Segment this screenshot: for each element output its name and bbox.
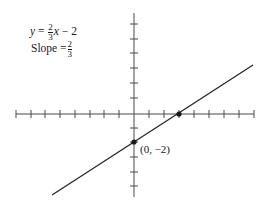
equation-equals: = [35, 25, 47, 37]
slope-text: Slope = [31, 42, 67, 54]
y-intercept-label: (0, −2) [140, 143, 170, 155]
graph-line [52, 65, 253, 195]
slope-numerator: 2 [68, 40, 73, 49]
equation-rest: − 2 [59, 25, 77, 37]
slope-fraction: 23 [68, 40, 73, 58]
equation-fraction: 23 [48, 23, 53, 41]
y-intercept-point [131, 139, 136, 144]
slope-label: Slope =23 [31, 40, 73, 58]
slope-denominator: 3 [68, 49, 73, 59]
x-intercept-point [176, 111, 181, 116]
fraction-numerator: 2 [48, 23, 53, 32]
